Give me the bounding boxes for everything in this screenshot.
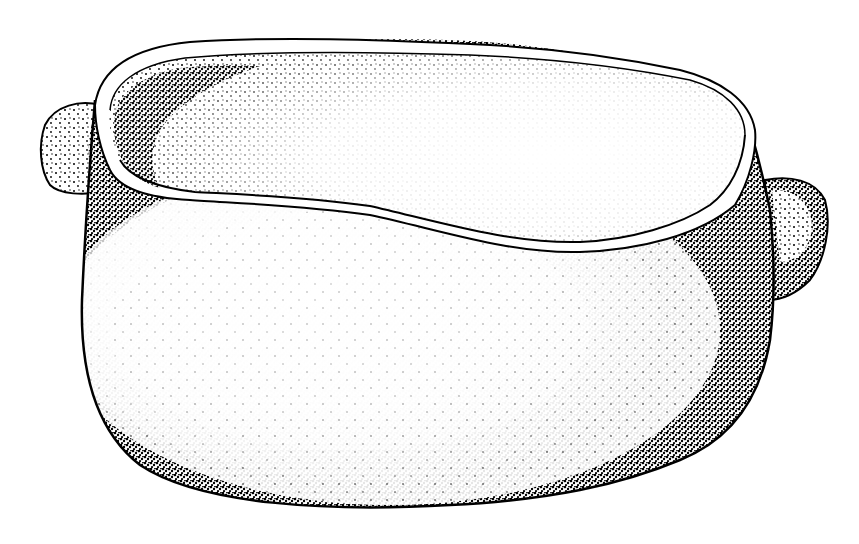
stone-vessel-drawing — [0, 0, 859, 544]
illustration-canvas: stone vessel with two lug handles — [0, 0, 859, 544]
